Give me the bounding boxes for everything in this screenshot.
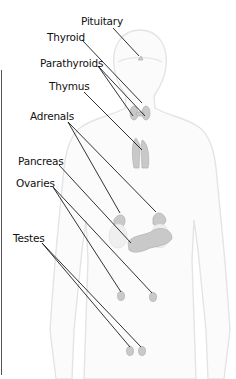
label-testes: Testes xyxy=(13,232,44,244)
label-thymus: Thymus xyxy=(49,80,89,92)
label-pituitary: Pituitary xyxy=(81,15,123,27)
label-thyroid: Thyroid xyxy=(47,31,85,43)
label-parathyroids: Parathyroids xyxy=(40,57,103,69)
body-illustration xyxy=(0,0,236,379)
label-ovaries: Ovaries xyxy=(16,177,55,189)
testis-left xyxy=(127,347,134,356)
ovary-left xyxy=(118,292,125,301)
label-pancreas: Pancreas xyxy=(18,155,64,167)
endocrine-diagram: Pituitary Thyroid Parathyroids Thymus Ad… xyxy=(0,0,236,379)
ovary-right xyxy=(150,293,157,302)
label-adrenals: Adrenals xyxy=(30,110,74,122)
testis-right xyxy=(139,347,146,356)
